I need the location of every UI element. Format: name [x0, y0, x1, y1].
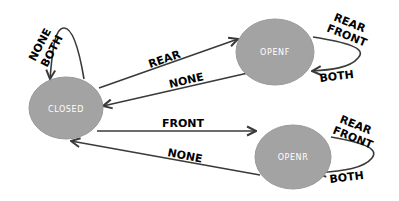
- edge-label-closed-openf-rear: REAR: [147, 48, 183, 71]
- edge-openr-to-closed: [71, 141, 260, 175]
- edge-label-closed-openr-front: FRONT: [162, 117, 205, 130]
- edge-label-openr-closed-none: NONE: [166, 146, 203, 165]
- node-closed: CLOSED: [29, 77, 103, 139]
- node-label-closed: CLOSED: [48, 105, 84, 114]
- edge-label-openr-loop-both: BOTH: [329, 169, 365, 186]
- node-label-openr: OPENR: [278, 153, 309, 162]
- node-openr: OPENR: [255, 125, 331, 189]
- node-openf: OPENF: [236, 19, 314, 85]
- state-diagram: CLOSED OPENF OPENR NONE BOTH REAR NONE F…: [0, 0, 399, 201]
- node-label-openf: OPENF: [260, 48, 290, 57]
- edge-label-openf-loop-both: BOTH: [319, 68, 355, 85]
